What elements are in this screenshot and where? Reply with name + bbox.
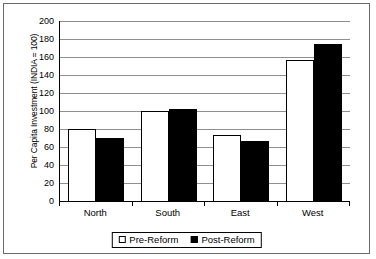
- x-tick-label-east: East: [204, 207, 277, 218]
- y-tick-label: 180: [39, 35, 54, 44]
- x-tick-mark: [277, 202, 278, 206]
- legend-label: Post-Reform: [201, 234, 254, 245]
- x-tick-label-south: South: [132, 207, 205, 218]
- y-tick-label: 20: [44, 179, 54, 188]
- y-tick-label: 120: [39, 89, 54, 98]
- y-tick-label: 40: [44, 161, 54, 170]
- x-tick-mark: [132, 202, 133, 206]
- bars-layer: [60, 21, 350, 201]
- x-tick-label-north: North: [59, 207, 132, 218]
- bar-east-pre-reform: [213, 135, 241, 201]
- bar-south-post-reform: [169, 109, 197, 201]
- bar-group-west: [278, 21, 351, 201]
- bar-west-pre-reform: [286, 60, 314, 201]
- y-tick-label: 0: [49, 197, 54, 206]
- y-tick-label: 100: [39, 107, 54, 116]
- x-tick-mark: [349, 202, 350, 206]
- y-tick-label: 140: [39, 71, 54, 80]
- chart-frame: Per Capita Investment (INDIA = 100) 2001…: [3, 3, 370, 254]
- x-tick-mark: [59, 202, 60, 206]
- y-axis-tick-labels: 200180160140120100806040200: [28, 21, 54, 201]
- legend-label: Pre-Reform: [129, 234, 178, 245]
- bar-west-post-reform: [314, 44, 342, 201]
- bar-north-post-reform: [96, 138, 124, 201]
- bar-east-post-reform: [241, 141, 269, 201]
- x-tick-label-west: West: [277, 207, 350, 218]
- bar-south-pre-reform: [141, 111, 169, 201]
- x-axis-tick-labels: NorthSouthEastWest: [59, 207, 349, 218]
- chart-legend: Pre-ReformPost-Reform: [111, 232, 261, 248]
- x-axis-tick-marks: [59, 202, 349, 206]
- legend-swatch-icon: [118, 236, 125, 243]
- bar-north-pre-reform: [68, 129, 96, 201]
- bar-group-north: [60, 21, 133, 201]
- legend-entry-pre-reform[interactable]: Pre-Reform: [118, 234, 178, 245]
- bar-group-east: [205, 21, 278, 201]
- bar-group-south: [133, 21, 206, 201]
- y-tick-label: 160: [39, 53, 54, 62]
- legend-entry-post-reform[interactable]: Post-Reform: [190, 234, 254, 245]
- x-tick-mark: [204, 202, 205, 206]
- y-tick-label: 80: [44, 125, 54, 134]
- y-tick-label: 60: [44, 143, 54, 152]
- y-tick-label: 200: [39, 17, 54, 26]
- legend-swatch-icon: [190, 236, 197, 243]
- plot-area: [59, 21, 350, 202]
